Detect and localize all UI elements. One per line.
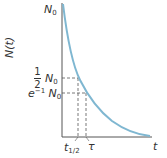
- y-top-label: N0: [44, 4, 57, 17]
- decay-plot: [0, 0, 167, 158]
- e-inv-n0-label: e−1 N0: [28, 88, 61, 101]
- tau-label: τ: [88, 141, 95, 152]
- y-axis-label: N(t): [4, 37, 15, 58]
- half-tick: [75, 137, 78, 141]
- x-axis-label: t: [153, 141, 157, 152]
- half-n0-label: N0: [45, 73, 58, 86]
- decay-curve: [63, 4, 150, 136]
- t-half-label: t1/2: [64, 142, 80, 155]
